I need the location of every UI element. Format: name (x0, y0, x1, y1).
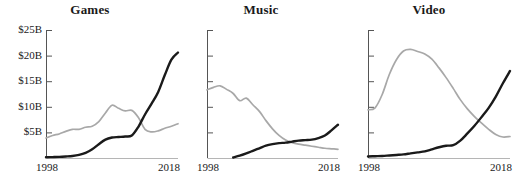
y-axis-label: $20B (0, 49, 42, 61)
series-line-physical (207, 86, 338, 150)
small-multiples-chart: Games $5B$10B$15B$20B$25B19982018 Music … (0, 0, 516, 184)
series-line-digital (233, 125, 338, 158)
y-axis-label: $25B (0, 23, 42, 35)
x-axis-label-start: 1998 (358, 161, 380, 173)
x-axis-label-start: 1998 (36, 161, 58, 173)
x-axis-label-start: 1998 (197, 161, 219, 173)
chart-panel-video: Video 19982018 (342, 0, 516, 184)
x-axis-label-end: 2018 (480, 161, 512, 173)
plot-area-video (342, 0, 516, 184)
series-line-physical (368, 49, 510, 137)
chart-panel-games: Games $5B$10B$15B$20B$25B19982018 (0, 0, 180, 184)
series-line-digital (368, 71, 510, 157)
plot-area-music (180, 0, 342, 184)
y-axis-label: $5B (0, 125, 42, 137)
chart-panel-music: Music 19982018 (180, 0, 342, 184)
series-line-physical (46, 105, 178, 138)
x-axis-label-end: 2018 (148, 161, 180, 173)
x-axis-label-end: 2018 (308, 161, 340, 173)
y-axis-label: $15B (0, 74, 42, 86)
y-axis-label: $10B (0, 100, 42, 112)
